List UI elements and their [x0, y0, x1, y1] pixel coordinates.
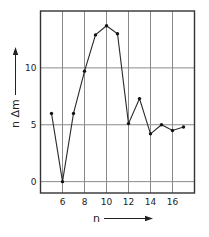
grid-layer [41, 11, 195, 193]
x-axis-arrowhead-icon [145, 216, 153, 221]
data-point-n14 [149, 132, 152, 135]
data-point-n8 [83, 70, 86, 73]
data-point-n12 [127, 122, 130, 125]
data-point-n10 [105, 24, 108, 27]
x-tick-label: 14 [145, 197, 157, 207]
data-point-n9 [94, 33, 97, 36]
data-point-n6 [61, 180, 64, 183]
data-point-n11 [116, 32, 119, 35]
data-point-n15 [160, 123, 163, 126]
x-tick-label: 6 [60, 197, 66, 207]
plot-frame [41, 11, 195, 193]
y-tick-label: 0 [31, 177, 37, 187]
x-tick-label: 10 [101, 197, 113, 207]
y-axis-label: n Δm [9, 99, 22, 128]
data-point-n13 [138, 97, 141, 100]
x-tick-label: 16 [167, 197, 179, 207]
data-point-n7 [72, 112, 75, 115]
data-point-n17 [182, 125, 185, 128]
tick-label-layer: 68101214160510 [25, 63, 178, 207]
chart: 68101214160510 n n Δm [0, 0, 209, 237]
x-tick-label: 12 [123, 197, 134, 207]
data-point-n5 [50, 112, 53, 115]
x-axis-label: n [93, 212, 100, 225]
x-tick-label: 8 [82, 197, 88, 207]
y-tick-label: 10 [25, 63, 37, 73]
marker-layer [50, 24, 185, 183]
y-axis-arrowhead-icon [13, 47, 18, 55]
series-line [52, 26, 184, 182]
y-tick-label: 5 [31, 120, 37, 130]
data-point-n16 [171, 129, 174, 132]
